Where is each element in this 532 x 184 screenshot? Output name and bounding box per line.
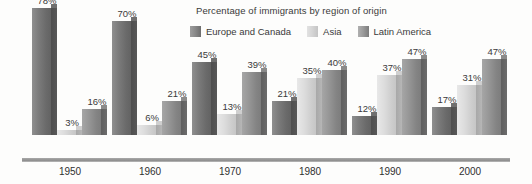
- bar-front-face: [242, 72, 261, 135]
- bar-body: [217, 114, 236, 135]
- bar-front-face: [137, 125, 156, 135]
- bar-side-face: [421, 59, 427, 135]
- bar-body: [297, 78, 316, 135]
- bar-body: [162, 101, 181, 135]
- bar-body: [242, 72, 261, 135]
- x-axis-tick-1960: 1960: [107, 166, 193, 177]
- bar-value-label: 70%: [112, 8, 142, 19]
- bar-front-face: [112, 21, 131, 135]
- bar-body: [482, 59, 501, 135]
- bar-value-label: 16%: [82, 96, 112, 107]
- bar-front-face: [57, 130, 76, 135]
- bar-front-face: [162, 101, 181, 135]
- bar-front-face: [217, 114, 236, 135]
- x-axis-tick-2000: 2000: [427, 166, 513, 177]
- bar-front-face: [377, 75, 396, 135]
- bar-body: [57, 130, 76, 135]
- bar-value-label: 40%: [322, 57, 352, 68]
- bar-body: [457, 85, 476, 135]
- bar-front-face: [482, 59, 501, 135]
- x-axis-baseline: [22, 158, 510, 162]
- bar-front-face: [297, 78, 316, 135]
- x-axis-tick-1990: 1990: [347, 166, 433, 177]
- bar-value-label: 39%: [242, 59, 272, 70]
- x-axis-tick-1970: 1970: [187, 166, 273, 177]
- bar-front-face: [82, 109, 101, 135]
- bar-front-face: [432, 107, 451, 135]
- bar-body: [402, 59, 421, 135]
- bar-body: [322, 70, 341, 135]
- x-axis-tick-1950: 1950: [27, 166, 113, 177]
- bar-front-face: [322, 70, 341, 135]
- bar-front-face: [402, 59, 421, 135]
- bar-body: [192, 62, 211, 135]
- bar-front-face: [352, 116, 371, 136]
- bar-side-face: [181, 101, 187, 135]
- bar-body: [82, 109, 101, 135]
- bar-front-face: [32, 8, 51, 135]
- bar-body: [272, 101, 291, 135]
- bar-side-face: [501, 59, 507, 135]
- bar-body: [377, 75, 396, 135]
- bar-chart: Percentage of immigrants by region of or…: [0, 0, 532, 184]
- bar-value-label: 78%: [32, 0, 62, 6]
- bar-body: [112, 21, 131, 135]
- bar-side-face: [341, 70, 347, 135]
- plot-area: 78%3%16%70%6%21%45%13%39%21%35%40%12%37%…: [0, 0, 532, 161]
- bar-value-label: 21%: [162, 88, 192, 99]
- bar-value-label: 45%: [192, 49, 222, 60]
- bar-front-face: [457, 85, 476, 135]
- bar-side-face: [261, 72, 267, 135]
- bar-side-face: [101, 109, 107, 135]
- bar-body: [352, 116, 371, 136]
- bar-body: [137, 125, 156, 135]
- bar-front-face: [272, 101, 291, 135]
- x-axis-tick-1980: 1980: [267, 166, 353, 177]
- bar-body: [432, 107, 451, 135]
- bar-front-face: [192, 62, 211, 135]
- bar-value-label: 47%: [402, 46, 432, 57]
- bar-side-face: [51, 8, 57, 135]
- bar-value-label: 47%: [482, 46, 512, 57]
- bar-body: [32, 8, 51, 135]
